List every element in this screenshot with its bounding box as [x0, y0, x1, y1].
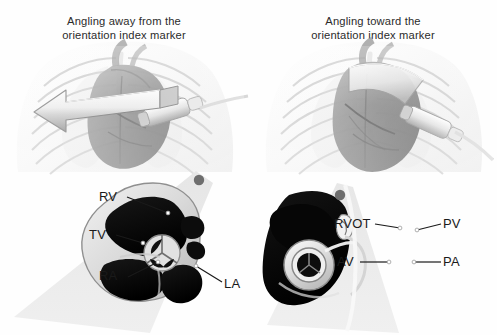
left-torso-illustration	[4, 46, 244, 176]
echocardiography-figure: Angling away from the orientation index …	[0, 0, 497, 335]
panel-left-caption: Angling away from the orientation index …	[0, 14, 248, 42]
panel-left-caption-line1: Angling away from the	[0, 14, 248, 28]
right-ultrasound-sector	[249, 165, 497, 335]
panel-right-caption-line2: orientation index marker	[249, 28, 497, 42]
label-rv: RV	[99, 189, 117, 204]
label-pa: PA	[443, 254, 460, 269]
label-rvot: RVOT	[334, 216, 371, 231]
left-ultrasound-sector	[0, 165, 248, 335]
label-la: LA	[224, 276, 240, 291]
orientation-index-marker-dot	[194, 175, 204, 185]
panel-right-caption: Angling toward the orientation index mar…	[249, 14, 497, 42]
right-torso-illustration	[253, 46, 493, 176]
small-chamber-a	[181, 216, 205, 239]
label-tv: TV	[89, 227, 106, 242]
aortic-valve-trileaflet	[144, 235, 180, 271]
label-ra: RA	[99, 268, 117, 283]
aortic-valve-short-axis	[284, 240, 334, 290]
panel-right-caption-line1: Angling toward the	[249, 14, 497, 28]
orientation-index-marker-dot	[335, 190, 345, 200]
panel-angling-away: Angling away from the orientation index …	[0, 0, 248, 335]
label-av: AV	[337, 254, 354, 269]
label-pv: PV	[443, 216, 461, 231]
panel-angling-toward: Angling toward the orientation index mar…	[249, 0, 497, 335]
